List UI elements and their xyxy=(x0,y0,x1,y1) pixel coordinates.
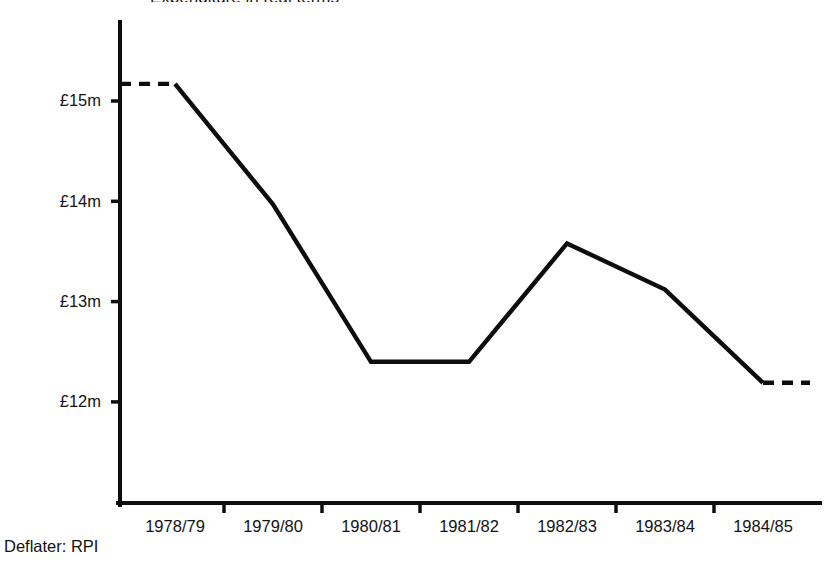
x-axis-tick-label: 1982/83 xyxy=(537,517,597,535)
deflater-footnote: Deflater: RPI xyxy=(4,537,98,555)
x-axis-tick-label: 1984/85 xyxy=(733,517,793,535)
y-axis-tick-label: £14m xyxy=(60,192,101,210)
x-axis-tick-label: 1980/81 xyxy=(341,517,401,535)
x-axis-tick-label: 1979/80 xyxy=(243,517,303,535)
y-axis-labels: £15m£14m£13m£12m xyxy=(60,91,101,410)
line-chart-figure: Expenditure in real terms £15m£14m£13m£1… xyxy=(0,0,833,568)
series-line-expenditure xyxy=(175,84,763,383)
y-axis-tick-label: £13m xyxy=(60,292,101,310)
y-axis-tick-label: £15m xyxy=(60,91,101,109)
axes-group xyxy=(118,22,820,505)
x-axis-tick-label: 1978/79 xyxy=(145,517,205,535)
y-axis-tick-label: £12m xyxy=(60,392,101,410)
chart-canvas: £15m£14m£13m£12m 1978/791979/801980/8119… xyxy=(0,0,833,568)
x-axis-labels: 1978/791979/801980/811981/821982/831983/… xyxy=(145,517,793,535)
x-axis-tick-label: 1981/82 xyxy=(439,517,499,535)
data-series-group xyxy=(120,84,810,383)
x-axis-tick-label: 1983/84 xyxy=(635,517,695,535)
